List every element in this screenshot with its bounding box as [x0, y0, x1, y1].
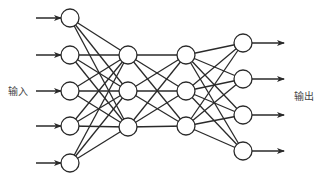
input-neuron — [61, 9, 79, 27]
input-neuron — [61, 117, 79, 135]
hidden-2-neuron — [177, 46, 195, 64]
input-label: 输入 — [8, 85, 28, 97]
output-neuron — [234, 70, 252, 88]
connections — [70, 18, 243, 163]
hidden-1-neuron — [119, 82, 137, 100]
output-neuron — [234, 106, 252, 124]
hidden-1-neuron — [119, 46, 137, 64]
input-neuron — [61, 46, 79, 64]
hidden-2-neuron — [177, 82, 195, 100]
input-neuron — [61, 82, 79, 100]
input-neuron — [61, 154, 79, 172]
hidden-2-neuron — [177, 117, 195, 135]
output-neuron — [234, 34, 252, 52]
output-neuron — [234, 142, 252, 160]
connection-line — [70, 127, 128, 163]
output-label: 输出 — [294, 90, 314, 102]
hidden-1-neuron — [119, 118, 137, 136]
connection-line — [70, 18, 128, 55]
neural-network-diagram: 输入 输出 — [0, 0, 322, 183]
